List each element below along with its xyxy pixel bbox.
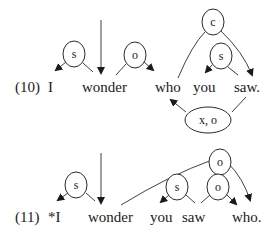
node-o-label: o (217, 155, 223, 169)
node-s-label: s (74, 178, 79, 192)
edge-wonder-o (116, 64, 126, 75)
word-you: you (150, 209, 173, 225)
word-wonder: wonder (88, 209, 133, 225)
word-you: you (193, 79, 216, 95)
word-saw: saw (182, 209, 205, 225)
example-number: (10) (15, 79, 40, 96)
edge-wonder-s (86, 193, 95, 201)
example-11: (11) *I wonder you saw who. s o s o (15, 149, 262, 226)
word-wonder: wonder (82, 79, 127, 95)
word-who: who. (232, 209, 262, 225)
edge-s-i (58, 193, 68, 200)
word-i: I (48, 79, 53, 95)
node-o-2-label: o (215, 180, 221, 194)
node-o-label: o (132, 48, 138, 62)
dependency-diagram: (10) I wonder who you saw. s o c s x, o (0, 0, 272, 237)
edge-wonder-s (83, 63, 93, 72)
node-c-label: c (210, 15, 215, 29)
word-saw: saw. (234, 79, 260, 95)
edge-o-who (144, 62, 153, 70)
edge-who-c (178, 32, 205, 78)
edge-o-who-2 (227, 195, 236, 204)
word-who: who (155, 79, 181, 95)
node-s-2-label: s (219, 49, 224, 63)
edge-o-who (228, 163, 250, 200)
node-x-o-label: x, o (199, 113, 217, 127)
edge-saw-o (201, 195, 210, 203)
example-number: (11) (15, 209, 39, 226)
edge-saw-s (186, 195, 195, 203)
edge-s-i (56, 62, 66, 70)
word-star-i: *I (48, 209, 61, 225)
node-s-2-label: s (175, 180, 180, 194)
edge-saw-s (228, 67, 238, 75)
edge-saw-xo (232, 97, 246, 112)
edge-xo-who (171, 100, 186, 112)
example-10: (10) I wonder who you saw. s o c s x, o (15, 9, 260, 133)
edge-s-you (206, 65, 212, 72)
node-s-label: s (72, 47, 77, 61)
edge-s-you (161, 195, 169, 202)
